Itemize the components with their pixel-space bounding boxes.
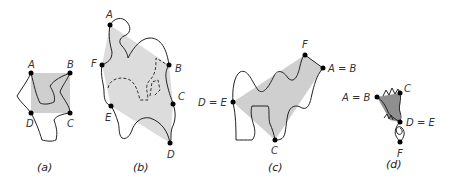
label-b-D: D	[167, 149, 175, 160]
vertex-d-F	[398, 140, 403, 145]
label-a-A: A	[27, 59, 35, 70]
vertex-a-C	[68, 111, 73, 116]
panel-d: C A = B D = E F (d)	[341, 83, 435, 171]
vertex-c-C	[273, 138, 278, 143]
label-a-C: C	[67, 118, 74, 129]
vertex-d-C	[398, 91, 403, 96]
panel-c-shaded-quad	[233, 55, 323, 140]
panel-b: A B C D E F (b)	[91, 9, 185, 174]
label-c-F: F	[302, 39, 308, 50]
panel-a-shaded-square	[31, 73, 70, 113]
label-a-D: D	[26, 118, 34, 129]
vertex-b-C	[171, 102, 176, 107]
caption-b: (b)	[133, 161, 149, 174]
label-c-DE: D = E	[198, 97, 227, 108]
vertex-c-AB	[321, 66, 326, 71]
vertex-b-E	[109, 104, 114, 109]
label-d-AB: A = B	[341, 92, 371, 103]
label-d-DE: D = E	[406, 117, 435, 128]
vertex-c-F	[303, 53, 308, 58]
vertex-d-AB	[375, 95, 380, 100]
figure-canvas: A B C D (a) A B C D E F (b) F A = B C D	[0, 0, 451, 187]
label-a-B: B	[67, 59, 74, 70]
vertex-a-D	[29, 111, 34, 116]
label-b-E: E	[105, 112, 112, 123]
vertex-c-DE	[231, 100, 236, 105]
label-b-C: C	[178, 91, 185, 102]
label-b-F: F	[91, 58, 97, 69]
vertex-d-DE	[398, 120, 403, 125]
vertex-b-D	[168, 141, 173, 146]
vertex-a-B	[68, 71, 73, 76]
caption-d: (d)	[386, 158, 402, 171]
panel-a: A B C D (a)	[17, 59, 74, 174]
label-b-B: B	[175, 63, 182, 74]
panel-c: F A = B C D = E (c)	[198, 39, 357, 174]
label-b-A: A	[105, 9, 113, 20]
vertex-a-A	[29, 71, 34, 76]
vertex-b-A	[108, 23, 113, 28]
caption-c: (c)	[268, 161, 283, 174]
label-c-C: C	[271, 145, 278, 156]
label-c-AB: A = B	[327, 63, 357, 74]
label-d-C: C	[404, 83, 411, 94]
caption-a: (a)	[37, 161, 52, 174]
vertex-b-B	[167, 63, 172, 68]
vertex-b-F	[100, 63, 105, 68]
